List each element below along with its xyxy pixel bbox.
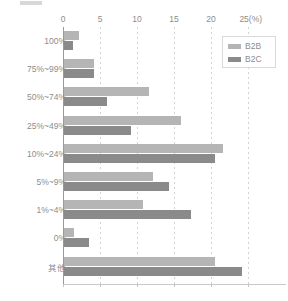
category-label: 5%~9%: [36, 177, 66, 187]
bar-b2b[interactable]: [64, 116, 181, 125]
bar-b2c[interactable]: [64, 154, 215, 163]
bar-b2c[interactable]: [64, 69, 94, 78]
x-tick-label-10: 10: [132, 14, 141, 24]
bar-b2b[interactable]: [64, 257, 215, 266]
legend-label-b2b: B2B: [245, 41, 261, 51]
bar-b2c[interactable]: [64, 97, 107, 106]
horizontal-bar-chart: 0510152025(%) 100%75%~99%50%~74%25%~49%1…: [0, 0, 288, 301]
legend-label-b2c: B2C: [245, 54, 262, 64]
legend-item-b2c[interactable]: B2C: [228, 54, 262, 64]
bar-b2b[interactable]: [64, 144, 223, 153]
tickmark-0: [63, 284, 64, 287]
chart-row: 5%~9%: [0, 169, 288, 195]
chart-row: 1%~4%: [0, 197, 288, 223]
bar-b2c[interactable]: [64, 126, 131, 135]
bar-b2c[interactable]: [64, 267, 242, 276]
category-label: 25%~49%: [27, 121, 66, 131]
bar-b2b[interactable]: [64, 228, 74, 237]
tickmark-10: [137, 284, 138, 287]
tickmark-25: [248, 284, 249, 287]
legend-item-b2b[interactable]: B2B: [228, 41, 261, 51]
x-tick-label-0: 0: [61, 14, 66, 24]
bar-b2c[interactable]: [64, 41, 73, 50]
category-label: 1%~4%: [36, 205, 66, 215]
category-label: 100%: [44, 36, 66, 46]
bar-b2b[interactable]: [64, 200, 143, 209]
chart-legend: B2B B2C: [222, 36, 276, 68]
x-tick-label-15: 15: [169, 14, 178, 24]
category-label: 10%~24%: [27, 149, 66, 159]
bar-b2c[interactable]: [64, 182, 169, 191]
bar-b2c[interactable]: [64, 210, 191, 219]
category-label: 50%~74%: [27, 92, 66, 102]
bar-b2b[interactable]: [64, 172, 153, 181]
legend-swatch-b2c: [228, 57, 241, 62]
chart-row: 10%~24%: [0, 141, 288, 167]
category-label: 75%~99%: [27, 64, 66, 74]
chart-row: 50%~74%: [0, 84, 288, 110]
tickmark-5: [100, 284, 101, 287]
x-tick-label-5: 5: [98, 14, 103, 24]
bar-b2c[interactable]: [64, 238, 89, 247]
legend-swatch-b2b: [228, 44, 241, 49]
tickmark-15: [174, 284, 175, 287]
tickmark-20: [211, 284, 212, 287]
bar-b2b[interactable]: [64, 59, 94, 68]
chart-row: 0%: [0, 225, 288, 251]
x-tick-label-25: 25(%): [239, 14, 262, 24]
chart-row: 其他: [0, 254, 288, 280]
bar-b2b[interactable]: [64, 31, 79, 40]
x-tick-label-20: 20: [206, 14, 215, 24]
chart-row: 25%~49%: [0, 113, 288, 139]
bar-b2b[interactable]: [64, 87, 149, 96]
